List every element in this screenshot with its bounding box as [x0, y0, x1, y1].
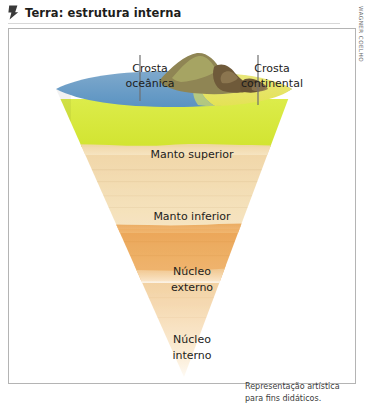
credit-text: WAGNER COELHO: [358, 6, 364, 16]
figure-title-bar: Terra: estrutura interna: [0, 0, 340, 26]
layer-label-line-2: interno: [132, 348, 252, 364]
label-manto-superior: Manto superior: [112, 147, 272, 163]
cone-shading-right: [295, 89, 319, 383]
label-nucleo-externo: Núcleo externo: [132, 264, 252, 296]
callout-crosta-oceanica: Crosta oceânica: [107, 62, 193, 92]
caption-line-2: para fins didáticos.: [245, 393, 361, 404]
cone-shading-left: [49, 89, 71, 383]
callout-line-2: oceânica: [107, 77, 193, 92]
layer-label-line-1: Manto inferior: [112, 209, 272, 225]
figure-caption: Representação artística para fins didáti…: [245, 381, 361, 404]
layer-label-line-1: Núcleo: [132, 264, 252, 280]
layer-label-line-1: Núcleo: [132, 332, 252, 348]
caption-line-1: Representação artística: [245, 381, 361, 393]
earth-cone-diagram: Crosta oceânica Crosta continental Manto…: [9, 29, 355, 383]
flag-bookmark-icon: [8, 5, 19, 20]
label-manto-inferior: Manto inferior: [112, 209, 272, 225]
layer-label-line-1: Manto superior: [112, 147, 272, 163]
callout-line-2: continental: [224, 77, 320, 92]
callout-line-1: Crosta: [107, 62, 193, 77]
credit-label: WAGNER COELHO: [356, 4, 366, 94]
page-title: Terra: estrutura interna: [25, 6, 181, 20]
layer-label-line-2: externo: [132, 280, 252, 296]
callout-line-1: Crosta: [224, 62, 320, 77]
label-nucleo-interno: Núcleo interno: [132, 332, 252, 364]
callout-crosta-continental: Crosta continental: [224, 62, 320, 92]
